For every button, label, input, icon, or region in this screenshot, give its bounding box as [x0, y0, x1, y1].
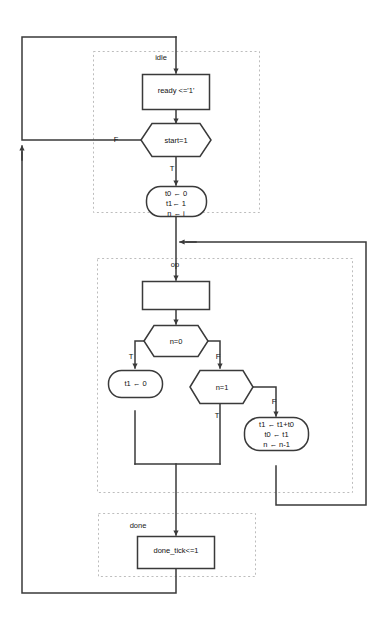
- block-op-empty-shape: [143, 282, 210, 310]
- block-update-line-2: n ← n-1: [263, 440, 290, 449]
- edge-label-start-false: F: [110, 135, 122, 145]
- edge-label-n1-true: T: [211, 411, 223, 421]
- block-init-line-2: n ← i: [167, 209, 185, 218]
- block-init-line-1: t1← 1: [166, 199, 186, 208]
- block-update-line-0: t1 ← t1+t0: [259, 420, 294, 429]
- state-label-idle: idle: [141, 53, 181, 63]
- edge-label-n0-false: F: [212, 352, 224, 362]
- edge-label-n1-false: F: [268, 397, 280, 407]
- decision-n1-text: n=1: [202, 383, 242, 393]
- state-label-op: op: [155, 260, 195, 270]
- decision-n0-text: n=0: [156, 337, 196, 347]
- block-ready-text: ready <='1': [142, 86, 210, 96]
- edge-label-n0-true: T: [125, 352, 137, 362]
- block-init-line-0: t0 ← 0: [165, 189, 187, 198]
- block-update-line-1: t0 ← t1: [264, 430, 288, 439]
- block-done-tick-text: done_tick<=1: [138, 546, 214, 556]
- asm-chart: idle op done ready <='1' done_tick<=1 t0…: [0, 0, 389, 618]
- state-label-done: done: [118, 521, 158, 531]
- block-update-text: t1 ← t1+t0t0 ← t1n ← n-1: [244, 420, 309, 450]
- block-clear-t1-text: t1 ← 0: [108, 379, 163, 389]
- edge-label-start-true: T: [166, 164, 178, 174]
- block-init-text: t0 ← 0t1← 1n ← i: [146, 189, 206, 219]
- decision-start-text: start=1: [156, 136, 196, 146]
